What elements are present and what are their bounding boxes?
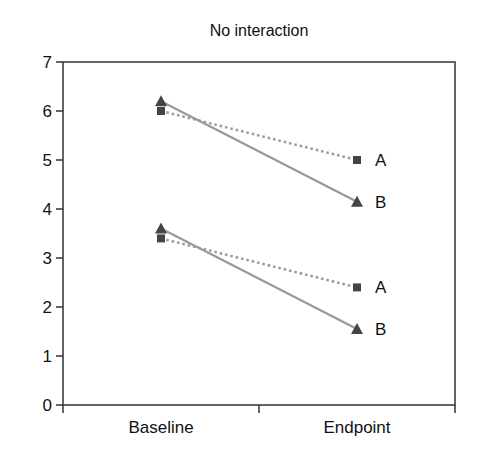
- y-tick-label: 0: [43, 396, 52, 415]
- y-tick-label: 1: [43, 347, 52, 366]
- triangle-marker: [155, 95, 167, 106]
- triangle-marker: [351, 196, 363, 207]
- y-tick-label: 3: [43, 249, 52, 268]
- plot-border: [63, 62, 455, 405]
- square-marker: [353, 283, 361, 291]
- x-category-label: Endpoint: [323, 418, 390, 437]
- series-label-a: A: [375, 151, 387, 170]
- y-tick-label: 7: [43, 53, 52, 72]
- y-tick-label: 5: [43, 151, 52, 170]
- series-label-b: B: [375, 320, 386, 339]
- series-label-b: B: [375, 193, 386, 212]
- series-label-a: A: [375, 278, 387, 297]
- plot-frame: [63, 62, 455, 405]
- y-tick-label: 2: [43, 298, 52, 317]
- square-marker: [353, 156, 361, 164]
- chart-title: No interaction: [210, 22, 309, 39]
- line-chart: No interaction 01234567 BaselineEndpoint…: [0, 0, 482, 464]
- series-labels: ABAB: [375, 151, 387, 339]
- x-category-label: Baseline: [128, 418, 193, 437]
- y-tick-label: 4: [43, 200, 52, 219]
- x-axis: BaselineEndpoint: [63, 405, 455, 437]
- series-markers: [155, 95, 363, 334]
- triangle-marker: [351, 323, 363, 334]
- y-axis: 01234567: [43, 53, 63, 415]
- square-marker: [157, 234, 165, 242]
- square-marker: [157, 107, 165, 115]
- y-tick-label: 6: [43, 102, 52, 121]
- triangle-marker: [155, 223, 167, 234]
- series-lines: [161, 101, 357, 329]
